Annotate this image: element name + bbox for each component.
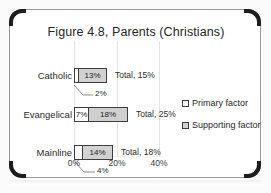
callout-value-mainline: 4% [97,166,109,175]
category-label-mainline: Mainline [0,147,72,158]
bar-value-primary-evangelical: 7% [76,111,88,119]
screenshot-root: Figure 4.8, Parents (Christians) Catholi… [0,0,271,193]
plot-area: Catholic 13% Total, 15% 2% Evangelical [10,10,262,179]
white-square-icon [182,100,189,107]
frame-drop-shade [9,180,261,185]
callout-leader-catholic [72,84,94,98]
category-label-catholic: Catholic [0,70,72,81]
bar-value-supporting-mainline: 14% [89,149,105,157]
total-label-evangelical: Total, 25% [136,109,176,119]
legend-item-supporting-factor[interactable]: Supporting factor [182,120,262,130]
total-label-catholic: Total, 15% [115,70,155,80]
gridline-40 [159,41,160,156]
chart-legend: Primary factor Supporting factor [182,98,262,142]
gray-square-icon [182,122,189,129]
chart-frame: Figure 4.8, Parents (Christians) Catholi… [9,9,261,178]
gridline-0 [74,41,75,156]
bar-value-supporting-evangelical: 18% [100,111,116,119]
legend-label-supporting-factor: Supporting factor [192,120,261,130]
bar-value-supporting-catholic: 13% [84,72,100,80]
bar-segment-supporting-catholic[interactable]: 13% [78,68,107,83]
category-label-evangelical: Evangelical [0,109,72,120]
x-tick-label-0: 0% [68,158,80,168]
total-label-mainline: Total, 18% [121,147,161,157]
x-tick-label-40: 40% [150,158,167,168]
bar-segment-supporting-evangelical[interactable]: 18% [88,107,128,122]
gridline-20 [117,41,118,156]
legend-item-primary-factor[interactable]: Primary factor [182,98,262,108]
callout-value-catholic: 2% [95,89,107,98]
x-tick-label-20: 20% [108,158,125,168]
bar-segment-primary-evangelical[interactable]: 7% [74,107,89,122]
legend-label-primary-factor: Primary factor [192,98,248,108]
